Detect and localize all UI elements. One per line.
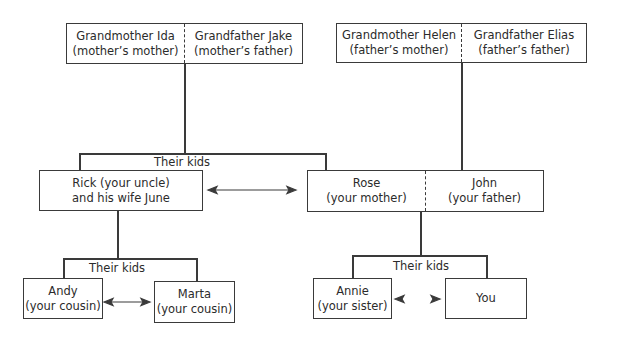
sibling-arrows	[0, 0, 618, 341]
double-arrow-icon	[208, 187, 296, 194]
double-arrow-icon	[104, 299, 150, 306]
arrowheads-icon	[395, 296, 440, 303]
